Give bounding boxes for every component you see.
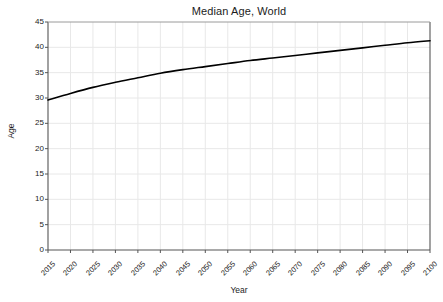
x-tick-label-group: 2015202020252030203520402045205020552060… (0, 0, 443, 302)
chart-figure: Median Age, World 051015202530354045 201… (0, 0, 443, 302)
y-axis-title: Age (6, 111, 16, 151)
x-axis-title: Year (48, 285, 430, 295)
